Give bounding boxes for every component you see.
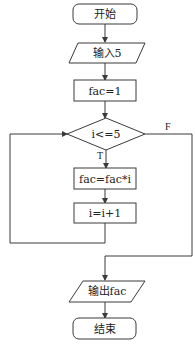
flowchart: 开始 输入5 fac=1 i<=5 T fac=fac*i i=i+1 F 输出… bbox=[0, 0, 195, 346]
init-node: fac=1 bbox=[74, 80, 136, 101]
start-node: 开始 bbox=[73, 4, 137, 24]
increment-node: i=i+1 bbox=[74, 203, 136, 223]
multiply-label: fac=fac*i bbox=[79, 173, 131, 186]
end-node: 结束 bbox=[73, 318, 136, 339]
input-label: 输入5 bbox=[93, 46, 122, 60]
output-label: 输出fac bbox=[88, 284, 127, 298]
increment-label: i=i+1 bbox=[89, 207, 121, 220]
end-label: 结束 bbox=[94, 323, 116, 336]
output-node: 输出fac bbox=[69, 281, 145, 302]
init-label: fac=1 bbox=[88, 85, 121, 98]
true-label: T bbox=[97, 150, 103, 161]
start-label: 开始 bbox=[94, 7, 116, 21]
condition-node: i<=5 bbox=[67, 118, 145, 150]
false-label: F bbox=[165, 121, 171, 132]
input-node: 输入5 bbox=[69, 43, 145, 63]
multiply-node: fac=fac*i bbox=[74, 168, 136, 189]
condition-label: i<=5 bbox=[92, 128, 121, 141]
